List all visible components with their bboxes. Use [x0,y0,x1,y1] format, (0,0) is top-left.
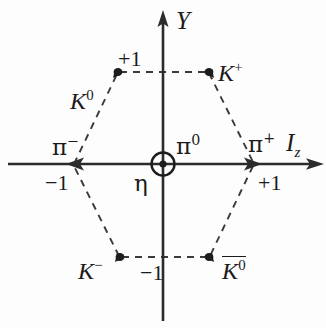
tick-label-y-minus-1: −1 [140,262,164,284]
axis-label-iz: Iz [286,130,301,160]
particle-label-k-zero-bar-superscript: 0 [238,257,246,273]
weight-diagram-figure: Y Iz +1 −1 −1 +1 K0 K+ K− K0 π− π+ π0 η [0,0,326,328]
particle-label-eta: η [134,172,148,195]
origin-center-dot [159,160,166,167]
tick-label-x-minus-1: −1 [45,172,69,194]
edge-Kminus-to-piminus [74,166,119,256]
particle-label-k-zero: K0 [70,88,94,113]
particle-label-k-minus: K− [78,258,103,283]
tick-label-x-plus-1: +1 [258,172,282,194]
particle-label-k-zero-superscript: 0 [86,87,94,103]
particle-label-k-plus: K+ [218,60,243,85]
particle-label-k-minus-superscript: − [94,257,103,273]
axis-label-y: Y [176,8,190,33]
overline-group: K0 [222,256,246,283]
particle-label-pi-minus-superscript: − [67,133,79,149]
edge-piplus-to-K0bar [210,166,253,256]
edge-piminus-to-K0 [74,72,118,164]
particle-label-pi-zero-superscript: 0 [191,132,200,148]
tick-label-y-plus-1: +1 [118,48,142,70]
particle-label-pi-plus: π+ [248,131,275,156]
particle-label-pi-minus: π− [52,134,79,159]
particle-label-k-plus-superscript: + [234,59,243,75]
particle-label-pi-plus-superscript: + [263,130,275,146]
particle-label-pi-zero: π0 [176,133,201,158]
particle-label-k-zero-bar: K0 [222,256,246,283]
axis-label-iz-subscript: z [295,144,301,160]
